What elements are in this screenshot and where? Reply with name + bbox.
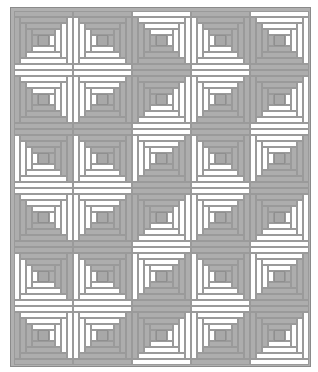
block-center <box>156 153 167 164</box>
strip-bottom <box>32 164 55 170</box>
strip-right <box>238 82 244 117</box>
strip-right <box>120 141 126 176</box>
strip-bottom <box>20 294 67 300</box>
block-center <box>215 94 226 105</box>
strip-bottom <box>79 58 126 64</box>
block-center <box>38 330 49 341</box>
strip-right <box>120 318 126 353</box>
block-center <box>156 271 167 282</box>
quilt-block <box>191 306 250 365</box>
strip-right <box>55 324 61 347</box>
strip-bottom <box>191 359 250 365</box>
strip-bottom <box>209 223 232 229</box>
strip-bottom <box>138 58 185 64</box>
strip-bottom <box>79 176 126 182</box>
strip-bottom <box>262 229 297 235</box>
quilt-block <box>132 11 191 70</box>
strip-right <box>179 318 185 353</box>
strip-bottom <box>250 359 309 365</box>
strip-bottom <box>268 105 291 111</box>
strip-bottom <box>91 105 114 111</box>
strip-bottom <box>209 341 232 347</box>
strip-right <box>55 147 61 170</box>
block-center <box>274 271 285 282</box>
block-center <box>38 35 49 46</box>
strip-right <box>173 206 179 229</box>
strip-bottom <box>150 341 173 347</box>
strip-bottom <box>268 341 291 347</box>
strip-right <box>297 23 303 58</box>
strip-bottom <box>85 229 120 235</box>
block-center <box>156 35 167 46</box>
strip-right <box>114 324 120 347</box>
strip-right <box>303 17 309 64</box>
strip-right <box>297 259 303 294</box>
block-center <box>97 330 108 341</box>
strip-bottom <box>132 359 191 365</box>
strip-right <box>303 312 309 359</box>
strip-right <box>238 23 244 58</box>
block-center <box>215 330 226 341</box>
strip-right <box>120 23 126 58</box>
strip-right <box>173 265 179 288</box>
strip-right <box>49 35 55 46</box>
strip-bottom <box>268 46 291 52</box>
strip-bottom <box>144 288 179 294</box>
strip-bottom <box>79 117 126 123</box>
strip-right <box>179 200 185 235</box>
strip-right <box>108 94 114 105</box>
strip-bottom <box>150 105 173 111</box>
strip-right <box>291 265 297 288</box>
strip-right <box>291 206 297 229</box>
strip-bottom <box>138 235 185 241</box>
strip-right <box>226 330 232 341</box>
strip-bottom <box>26 229 61 235</box>
strip-right <box>226 35 232 46</box>
block-center <box>215 271 226 282</box>
strip-right <box>108 153 114 164</box>
quilt-block <box>14 129 73 188</box>
strip-right <box>303 135 309 182</box>
strip-right <box>291 147 297 170</box>
strip-right <box>49 94 55 105</box>
strip-bottom <box>85 347 120 353</box>
quilt-block <box>250 247 309 306</box>
strip-bottom <box>197 353 244 359</box>
block-center <box>156 94 167 105</box>
strip-right <box>303 76 309 123</box>
strip-right <box>232 88 238 111</box>
strip-bottom <box>262 288 297 294</box>
strip-right <box>108 212 114 223</box>
strip-bottom <box>203 347 238 353</box>
strip-bottom <box>256 294 303 300</box>
strip-bottom <box>262 170 297 176</box>
strip-bottom <box>144 111 179 117</box>
quilt-block-grid <box>14 11 309 365</box>
strip-right <box>226 212 232 223</box>
strip-bottom <box>91 282 114 288</box>
block-center <box>215 35 226 46</box>
strip-right <box>291 324 297 347</box>
block-center <box>215 153 226 164</box>
strip-bottom <box>73 359 132 365</box>
quilt-block <box>14 247 73 306</box>
strip-right <box>55 29 61 52</box>
strip-bottom <box>268 164 291 170</box>
strip-bottom <box>32 341 55 347</box>
strip-bottom <box>150 46 173 52</box>
block-center <box>38 271 49 282</box>
strip-bottom <box>256 353 303 359</box>
strip-bottom <box>138 176 185 182</box>
strip-bottom <box>138 294 185 300</box>
strip-bottom <box>85 52 120 58</box>
strip-right <box>167 94 173 105</box>
strip-bottom <box>262 111 297 117</box>
quilt-block <box>250 129 309 188</box>
strip-bottom <box>32 105 55 111</box>
block-center <box>97 94 108 105</box>
quilt-block <box>14 70 73 129</box>
strip-bottom <box>138 117 185 123</box>
strip-bottom <box>85 111 120 117</box>
strip-right <box>285 153 291 164</box>
strip-right <box>179 82 185 117</box>
